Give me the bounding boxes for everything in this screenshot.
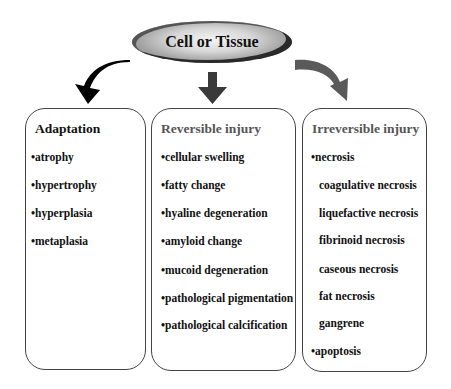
list-item: caseous necrosis (319, 263, 398, 275)
list-item: •pathological pigmentation (161, 292, 293, 304)
list-item: •hyaline degeneration (161, 207, 268, 219)
list-item: •hyperplasia (31, 207, 93, 219)
root-label: Cell or Tissue (165, 33, 258, 51)
list-item: •fatty change (161, 179, 225, 191)
list-item: fat necrosis (319, 290, 375, 302)
list-item: gangrene (319, 317, 364, 329)
down-arrow-icon (198, 72, 227, 104)
list-item: •hypertrophy (31, 179, 97, 191)
list-item: liquefactive necrosis (319, 207, 418, 219)
adaptation-title: Adaptation (35, 121, 100, 137)
list-item: •atrophy (31, 151, 74, 163)
list-item: •necrosis (311, 151, 354, 163)
root-node: Cell or Tissue (132, 21, 292, 63)
reversible-injury-title: Reversible injury (161, 121, 261, 137)
list-item: •mucoid degeneration (161, 264, 268, 276)
list-item: coagulative necrosis (319, 179, 417, 191)
list-item: fibrinoid necrosis (319, 234, 405, 246)
left-curved-arrow-icon (75, 60, 130, 104)
irreversible-injury-title: Irreversible injury (312, 121, 419, 137)
list-item: •pathological calcification (161, 319, 287, 331)
list-item: •amyloid change (161, 235, 242, 247)
list-item: •metaplasia (31, 235, 88, 247)
irreversible-injury-box: Irreversible injury •necrosis coagulativ… (302, 108, 427, 372)
list-item: •apoptosis (311, 345, 361, 357)
right-curved-arrow-icon (295, 60, 348, 101)
reversible-injury-box: Reversible injury •cellular swelling •fa… (151, 108, 296, 371)
adaptation-box: Adaptation •atrophy •hypertrophy •hyperp… (25, 108, 146, 370)
list-item: •cellular swelling (161, 151, 244, 163)
